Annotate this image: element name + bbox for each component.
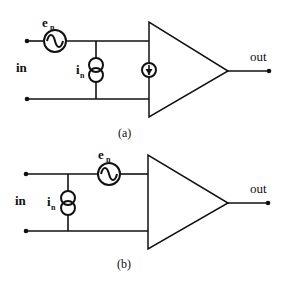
current-source-icon xyxy=(61,191,75,215)
current-source-subscript-b: n xyxy=(51,203,56,212)
voltage-source-label-b: e xyxy=(98,147,104,162)
input-terminal-top-a xyxy=(25,39,30,44)
voltage-source-subscript-a: n xyxy=(50,23,55,32)
diagram-a: e n i n in out (a) xyxy=(16,15,271,140)
input-terminal-top-b xyxy=(24,172,29,177)
internal-current-source-icon xyxy=(142,63,156,77)
voltage-source-subscript-b: n xyxy=(106,155,111,164)
output-label-b: out xyxy=(250,181,267,196)
caption-b: (b) xyxy=(117,257,131,271)
voltage-source-label-a: e xyxy=(42,15,48,30)
current-source-icon xyxy=(89,58,103,82)
input-label-a: in xyxy=(16,60,28,75)
noise-model-figure: e n i n in out (a) xyxy=(0,0,285,281)
voltage-source-icon xyxy=(44,30,66,52)
output-label-a: out xyxy=(250,49,267,64)
input-terminal-bottom-a xyxy=(25,97,30,102)
current-source-subscript-a: n xyxy=(80,71,85,80)
diagram-b: i n e n in out (b) xyxy=(15,147,270,271)
input-label-b: in xyxy=(15,193,27,208)
output-terminal-b xyxy=(266,201,271,206)
voltage-source-icon xyxy=(98,163,120,185)
output-terminal-a xyxy=(267,69,272,74)
amplifier-triangle-a xyxy=(149,22,228,117)
amplifier-triangle-b xyxy=(148,155,228,249)
input-terminal-bottom-b xyxy=(24,229,29,234)
caption-a: (a) xyxy=(118,126,131,140)
